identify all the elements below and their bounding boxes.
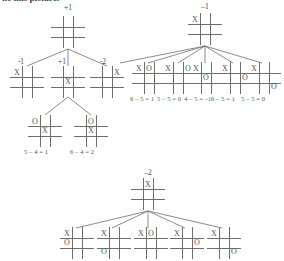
cell-6 (163, 82, 173, 91)
cell-0: X (209, 229, 219, 238)
cell-7 (102, 86, 112, 95)
cell-1 (173, 64, 183, 73)
tree-right-child-1-score: 5 – 5 = 0 (157, 95, 181, 102)
cell-5 (73, 77, 83, 86)
cell-3 (163, 73, 173, 82)
tree-left-grandchild-1-board: O X (76, 117, 106, 145)
cell-4 (182, 238, 192, 247)
tree-right-child-4-board: X O (249, 64, 279, 92)
tree-left-grandchild-0-board: O X (30, 117, 60, 145)
cell-1: O (146, 229, 156, 238)
cell-6 (134, 82, 144, 91)
cell-1 (109, 229, 119, 238)
cell-2 (269, 64, 279, 73)
cell-4 (102, 77, 112, 86)
cell-0 (53, 68, 63, 77)
cell-2 (82, 229, 92, 238)
cell-8: O (229, 247, 239, 256)
cell-6 (53, 86, 63, 95)
cell-7 (86, 135, 96, 144)
cell-2 (32, 68, 42, 77)
cell-7 (72, 247, 82, 256)
cell-8 (153, 198, 163, 207)
cell-1 (219, 229, 229, 238)
tree-right-child-2-score: 4 – 5 = –1 (184, 95, 211, 102)
tree-left-root-value: +1 (54, 3, 82, 12)
cell-1 (63, 18, 73, 27)
cell-7 (201, 82, 211, 91)
cell-7 (63, 36, 73, 45)
tree-right-child-3-board: X O (220, 64, 250, 92)
cell-3 (172, 238, 182, 247)
cell-7 (22, 86, 32, 95)
cell-7 (146, 247, 156, 256)
cell-4: X (63, 77, 73, 86)
cell-1 (200, 15, 210, 24)
cell-2 (50, 117, 60, 126)
cell-4 (22, 77, 32, 86)
cell-3 (133, 189, 143, 198)
cell-2 (73, 68, 83, 77)
cell-7 (63, 86, 73, 95)
cell-0 (53, 18, 63, 27)
cell-8 (210, 33, 220, 42)
cell-0: X (62, 229, 72, 238)
cell-0 (92, 68, 102, 77)
cell-8 (96, 135, 106, 144)
cell-0: X (163, 64, 173, 73)
cell-6 (133, 198, 143, 207)
cell-1 (22, 68, 32, 77)
cell-2: X (112, 68, 122, 77)
tree-bottom-child-3-board: X O (172, 229, 202, 257)
cell-7 (40, 135, 50, 144)
tree-right-child-4-score: 5 – 5 = 0 (241, 95, 265, 102)
tree-left-child-2-board: X (92, 68, 122, 96)
cell-0: X (99, 229, 109, 238)
cell-8 (119, 247, 129, 256)
cell-6 (220, 82, 230, 91)
cell-5 (32, 77, 42, 86)
cell-4: O (201, 73, 211, 82)
cell-1 (102, 68, 112, 77)
cell-2 (96, 117, 106, 126)
cell-0: X (134, 64, 144, 73)
cell-8 (156, 247, 166, 256)
cell-1 (230, 64, 240, 73)
cell-6 (53, 36, 63, 45)
cell-4 (173, 73, 183, 82)
cell-4 (146, 238, 156, 247)
cell-6 (30, 135, 40, 144)
tree-left-grandchild-1-score: 6 – 4 = 2 (70, 148, 94, 155)
cell-7 (219, 247, 229, 256)
cell-4 (259, 73, 269, 82)
cell-0: X (12, 68, 22, 77)
tree-left-child-2-value: -2 (90, 57, 116, 66)
cell-7 (173, 82, 183, 91)
tree-bottom-root-board: X (133, 180, 163, 208)
cell-5 (73, 27, 83, 36)
tree-right-child-2-board: X O (191, 64, 221, 92)
cell-8 (73, 86, 83, 95)
cell-6 (62, 247, 72, 256)
cell-6 (92, 86, 102, 95)
cell-7 (200, 33, 210, 42)
cell-2 (229, 229, 239, 238)
cell-1 (259, 64, 269, 73)
cell-6 (191, 82, 201, 91)
tree-left-grandchild-0-score: 5 – 4 = 1 (24, 148, 48, 155)
cell-3 (136, 238, 146, 247)
tree-right-child-3-score: 6 – 5 = 1 (211, 95, 235, 102)
cell-3: O (62, 238, 72, 247)
cell-7 (259, 82, 269, 91)
tree-left-child-0-value: -1 (8, 57, 34, 66)
cell-5 (119, 238, 129, 247)
cell-5 (153, 189, 163, 198)
cell-2 (73, 18, 83, 27)
cell-0: X (172, 229, 182, 238)
cell-8 (82, 247, 92, 256)
cell-8 (32, 86, 42, 95)
cell-0: O (30, 117, 40, 126)
tree-right-root-value: –1 (191, 2, 219, 11)
cell-6 (209, 247, 219, 256)
cell-5 (229, 238, 239, 247)
